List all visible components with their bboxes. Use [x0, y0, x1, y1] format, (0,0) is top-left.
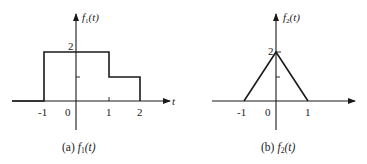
- xtick-label-neg1-b: -1: [237, 106, 246, 118]
- figure-canvas: f1(t) 2 t -1 0 1 2 (a)f1(t) f2(t) 2 -1 0…: [0, 0, 367, 164]
- ylabel-b: f2(t): [283, 11, 300, 25]
- plot-a: f1(t) 2 t -1 0 1 2 (a)f1(t): [12, 11, 176, 155]
- xtick-label-0-b: 0: [265, 106, 271, 118]
- ytick-label-2-b: 2: [268, 45, 274, 57]
- xlabel-a: t: [172, 95, 176, 107]
- ytick-label-2-a: 2: [68, 40, 74, 52]
- xtick-label-0-a: 0: [65, 106, 71, 118]
- plot-b: f2(t) 2 -1 0 1 (b)f2(t): [212, 11, 355, 155]
- ylabel-a: f1(t): [82, 11, 99, 25]
- xtick-label-1-a: 1: [106, 106, 112, 118]
- caption-b: (b)f2(t): [261, 141, 295, 155]
- xtick-label-1-b: 1: [305, 106, 311, 118]
- xtick-label-2-a: 2: [137, 106, 143, 118]
- xtick-label-neg1-a: -1: [38, 106, 47, 118]
- caption-a: (a)f1(t): [62, 141, 96, 155]
